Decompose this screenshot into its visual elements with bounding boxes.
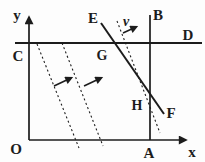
velocity-label: v bbox=[123, 14, 130, 29]
direction-arrow-2 bbox=[84, 78, 101, 86]
origin-label: O bbox=[10, 141, 22, 157]
point-label-a: A bbox=[144, 145, 155, 161]
diagram-canvas: y x O A B C D E F G H v bbox=[0, 0, 205, 162]
wavefront-line-3 bbox=[117, 21, 160, 133]
direction-arrow-1 bbox=[54, 78, 71, 86]
axis-label-x: x bbox=[188, 144, 196, 160]
point-label-h: H bbox=[132, 98, 143, 113]
point-label-g: G bbox=[97, 48, 108, 63]
point-label-f: F bbox=[166, 105, 175, 121]
point-label-c: C bbox=[13, 48, 24, 64]
axis-label-y: y bbox=[13, 7, 21, 23]
point-label-b: B bbox=[153, 7, 163, 23]
point-label-d: D bbox=[183, 27, 194, 43]
physics-wave-diagram: y x O A B C D E F G H v bbox=[0, 0, 205, 162]
wavefront-line-1 bbox=[37, 44, 79, 148]
point-label-e: E bbox=[88, 10, 98, 26]
